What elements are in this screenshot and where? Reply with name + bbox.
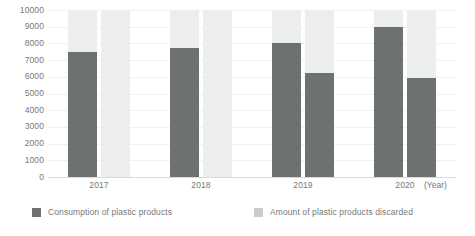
chart-legend: Consumption of plastic products Amount o… <box>0 205 475 227</box>
x-axis-tick-2017: 2017 <box>64 180 134 191</box>
bar-2019-series-2[interactable] <box>305 10 334 177</box>
bar-2018-series-1[interactable] <box>170 10 199 177</box>
y-axis-tick-1000: 1000 <box>0 156 44 165</box>
x-axis-tick-2019: 2019 <box>268 180 338 191</box>
legend-item-discarded[interactable]: Amount of plastic products discarded <box>254 205 413 219</box>
y-axis-tick-10000: 10000 <box>0 6 44 15</box>
y-axis-tick-2000: 2000 <box>0 139 44 148</box>
bar-chart-figure: 1000090008000700060005000400030002000100… <box>0 0 475 236</box>
y-axis-tick-0: 0 <box>0 173 44 182</box>
x-axis-tick-labels: 2017201820192020 <box>48 180 456 194</box>
bar-fill-2017-series-1 <box>68 52 97 177</box>
x-axis-unit-label: (Year) <box>424 180 447 191</box>
bar-2018-series-2[interactable] <box>203 10 232 177</box>
legend-label-consumption: Consumption of plastic products <box>48 207 172 217</box>
bar-fill-2018-series-1 <box>170 48 199 177</box>
bar-group-2019 <box>272 10 334 177</box>
bar-fill-2019-series-2 <box>305 73 334 177</box>
y-axis-tick-labels: 1000090008000700060005000400030002000100… <box>0 0 44 190</box>
bar-fill-2019-series-1 <box>272 43 301 177</box>
bar-2017-series-2[interactable] <box>101 10 130 177</box>
y-axis-tick-4000: 4000 <box>0 106 44 115</box>
y-axis-tick-6000: 6000 <box>0 72 44 81</box>
y-axis-tick-9000: 9000 <box>0 22 44 31</box>
legend-swatch-icon-discarded <box>254 208 263 217</box>
legend-item-consumption[interactable]: Consumption of plastic products <box>32 205 172 219</box>
y-axis-tick-3000: 3000 <box>0 122 44 131</box>
bar-group-2020 <box>374 10 436 177</box>
bar-2020-series-1[interactable] <box>374 10 403 177</box>
bar-fill-2020-series-2 <box>407 78 436 177</box>
x-axis-tick-2018: 2018 <box>166 180 236 191</box>
y-axis-tick-8000: 8000 <box>0 39 44 48</box>
gridline-0 <box>48 177 456 178</box>
bar-group-2018 <box>170 10 232 177</box>
bar-group-2017 <box>68 10 130 177</box>
plot-area <box>48 10 456 177</box>
bar-2017-series-1[interactable] <box>68 10 97 177</box>
y-axis-tick-7000: 7000 <box>0 56 44 65</box>
bar-fill-2020-series-1 <box>374 27 403 177</box>
y-axis-tick-5000: 5000 <box>0 89 44 98</box>
bar-2020-series-2[interactable] <box>407 10 436 177</box>
bar-2019-series-1[interactable] <box>272 10 301 177</box>
legend-label-discarded: Amount of plastic products discarded <box>270 207 413 217</box>
legend-swatch-icon-consumption <box>32 208 41 217</box>
